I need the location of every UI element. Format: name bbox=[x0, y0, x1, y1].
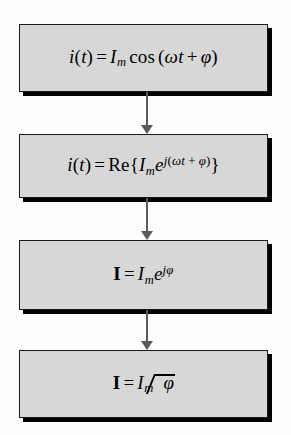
formula1-plus: + bbox=[187, 46, 198, 67]
down-arrow-icon bbox=[141, 231, 153, 240]
formula3-e: e bbox=[154, 263, 163, 284]
formula4-phasor: I bbox=[113, 372, 121, 393]
formula2-exponent: j(ωt+φ) bbox=[164, 153, 211, 168]
formula-real-part-exponential: i(t)=Re{Imej(ωt+φ)} bbox=[67, 155, 220, 177]
formula2-equals: = bbox=[94, 154, 105, 175]
formula3-equals: = bbox=[124, 263, 135, 284]
formula1-amplitude: I bbox=[110, 46, 117, 67]
arrow-stem bbox=[146, 92, 148, 126]
arrow-node1-to-node2 bbox=[141, 92, 153, 134]
formula-time-domain-cosine: i(t)=Imcos(ωt+φ) bbox=[69, 47, 218, 69]
arrow-node3-to-node4 bbox=[141, 310, 153, 350]
down-arrow-icon bbox=[141, 125, 153, 134]
formula2-re: Re bbox=[108, 154, 130, 175]
flow-node-phasor-exponential: I=Imejφ bbox=[19, 240, 268, 310]
formula1-lhs-close: ) bbox=[87, 46, 94, 67]
arrow-node2-to-node3 bbox=[141, 198, 153, 240]
formula2-e: e bbox=[155, 154, 164, 175]
down-arrow-icon bbox=[141, 341, 153, 350]
formula1-time: t bbox=[178, 46, 183, 67]
formula4-amplitude: I bbox=[137, 372, 144, 393]
angle-notation-icon: φ bbox=[154, 373, 174, 392]
formula2-lhs-close: ) bbox=[85, 154, 92, 175]
phasor-flowchart: i(t)=Imcos(ωt+φ) i(t)=Re{Imej(ωt+φ)} I=I… bbox=[0, 0, 291, 435]
formula3-amplitude: I bbox=[138, 263, 145, 284]
flow-node-real-part-exponential: i(t)=Re{Imej(ωt+φ)} bbox=[19, 134, 268, 198]
formula2-amplitude-subscript: m bbox=[146, 164, 155, 178]
formula2-brace-close: } bbox=[210, 154, 219, 175]
formula2-exp-phase: φ bbox=[199, 153, 206, 168]
formula2-exp-plus: + bbox=[188, 153, 195, 168]
formula3-exponent: jφ bbox=[163, 262, 174, 277]
formula3-exp-phase: φ bbox=[166, 262, 173, 277]
formula1-amplitude-subscript: m bbox=[117, 55, 126, 69]
formula-phasor-exponential: I=Imejφ bbox=[113, 264, 173, 286]
formula2-brace-open: { bbox=[130, 154, 139, 175]
formula1-equals: = bbox=[96, 46, 107, 67]
formula1-cos: cos bbox=[129, 46, 155, 67]
formula3-phasor: I bbox=[113, 263, 121, 284]
arrow-stem bbox=[146, 198, 148, 232]
formula2-amplitude: I bbox=[139, 154, 146, 175]
formula1-close-paren: ) bbox=[211, 46, 218, 67]
formula2-exp-omega: ω bbox=[172, 153, 181, 168]
flow-node-phasor-angle-notation: I=Imφ bbox=[19, 350, 268, 418]
angle-overbar bbox=[155, 374, 175, 376]
formula1-omega: ω bbox=[165, 46, 179, 67]
flow-node-time-domain-cosine: i(t)=Imcos(ωt+φ) bbox=[19, 24, 268, 92]
formula4-equals: = bbox=[123, 372, 134, 393]
arrow-stem bbox=[146, 310, 148, 342]
formula1-phase: φ bbox=[201, 46, 212, 67]
formula2-exp-t: t bbox=[181, 153, 185, 168]
formula-phasor-angle-notation: I=Imφ bbox=[113, 373, 174, 395]
formula3-amplitude-subscript: m bbox=[145, 273, 154, 287]
